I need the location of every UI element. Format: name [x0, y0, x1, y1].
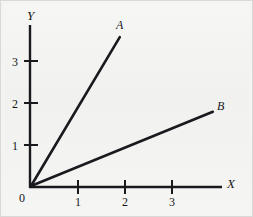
series-label-b: B — [217, 100, 224, 112]
plot-canvas — [0, 0, 253, 217]
y-axis-label: Y — [27, 9, 34, 22]
series-line-a — [31, 37, 120, 186]
y-tick-label-2: 2 — [12, 98, 18, 110]
x-tick-label-2: 2 — [122, 196, 128, 208]
x-tick-label-3: 3 — [169, 196, 175, 208]
series-line-b — [31, 112, 213, 186]
line-chart-figure: Y X 0 1 2 3 1 2 3 A B — [0, 0, 253, 217]
origin-tick-label: 0 — [19, 192, 25, 204]
y-tick-label-1: 1 — [12, 140, 18, 152]
y-tick-label-3: 3 — [12, 56, 18, 68]
x-axis-label: X — [227, 177, 235, 190]
x-tick-label-1: 1 — [75, 196, 81, 208]
series-label-a: A — [116, 19, 123, 31]
